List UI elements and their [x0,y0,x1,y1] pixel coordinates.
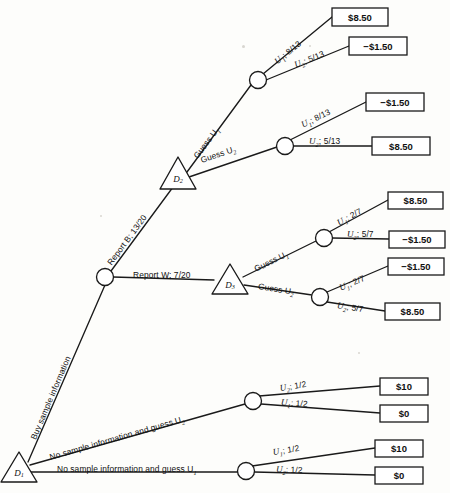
edge-report-b [111,183,176,271]
chance-node-no-sample-u1[interactable] [238,463,255,480]
scan-speck [358,352,360,354]
chance-node-d2-guess-u2[interactable] [277,138,294,155]
tree-graphic: D2 D3 D1 $8.50 −$1.50 −$1.50 $8.50 $8.50 [0,0,450,493]
payoff-value: $10 [396,381,412,392]
edges [28,17,389,475]
payoff-value: −$1.50 [401,261,430,272]
payoff-value: −$1.50 [402,234,431,245]
chance-node-d3-guess-u2[interactable] [312,289,329,306]
chance-node-d3-guess-u1[interactable] [316,230,333,247]
edge-label-prob-u1-half-a: U1; 1/2 [281,397,308,410]
payoff-value: $0 [394,470,405,481]
edge-ns-u2-outcome-2 [261,404,380,413]
payoff-value: $10 [391,443,407,454]
payoff-value: $0 [399,408,410,419]
decision-node-d2[interactable] [160,157,196,189]
payoff-boxes: $8.50 −$1.50 −$1.50 $8.50 $8.50 −$1.50 −… [332,8,445,484]
edge-label-no-sample-guess-u1: No sample information and guess U1 [57,464,197,476]
chance-node-report[interactable] [97,269,114,286]
edge-ns-u1-outcome-1 [252,448,375,466]
edge-label-report-w: Report W; 7/20 [133,270,191,280]
edge-label-prob-u2-half-b: U2; 1/2 [276,464,303,477]
payoff-value: −$1.50 [380,97,409,108]
scan-speck [309,45,311,47]
edge-ns-u2-outcome-1 [259,386,380,396]
edge-ns-u1-outcome-2 [254,472,375,475]
payoff-value: $8.50 [404,195,428,206]
payoff-value: $8.50 [389,141,413,152]
decision-tree-figure: D2 D3 D1 $8.50 −$1.50 −$1.50 $8.50 $8.50 [0,0,450,493]
payoff-value: $8.50 [348,12,372,23]
payoff-value: $8.50 [401,306,425,317]
edge-label-prob-u2-5-7-a: U2; 5/7 [347,229,374,241]
scan-speck [100,215,102,217]
edge-label-prob-u2-5-13-b: U2; 5/13 [309,136,340,148]
chance-node-d2-guess-u1[interactable] [250,72,267,89]
chance-node-no-sample-u2[interactable] [245,393,262,410]
scan-speck [242,45,245,48]
payoff-value: −$1.50 [363,41,392,52]
